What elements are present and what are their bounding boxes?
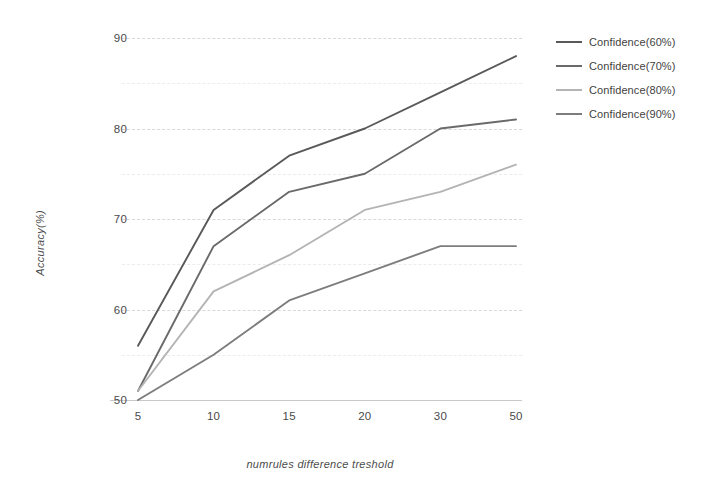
x-tick-30: 30 [434, 410, 447, 422]
y-tick-80: 80 [114, 123, 127, 135]
series-line-confidence-90 [138, 246, 516, 400]
legend: Confidence(60%)Confidence(70%)Confidence… [556, 30, 706, 126]
x-tick-50: 50 [509, 410, 522, 422]
y-axis-title: Accuracy(%) [34, 210, 46, 276]
legend-label: Confidence(70%) [589, 60, 676, 72]
legend-line-swatch-icon [556, 65, 582, 67]
y-tick-70: 70 [114, 213, 127, 225]
y-tick-60: 60 [114, 304, 127, 316]
line-chart: Accuracy(%) numrules difference treshold… [0, 0, 709, 496]
legend-item[interactable]: Confidence(80%) [556, 78, 706, 102]
x-axis-line [110, 400, 522, 401]
x-axis-title: numrules difference treshold [0, 458, 640, 470]
legend-line-swatch-icon [556, 113, 582, 115]
series-line-confidence-80 [138, 165, 516, 391]
plot-area: 5060708090 51015203050 [138, 38, 516, 400]
series-lines [138, 38, 516, 400]
y-tick-90: 90 [114, 32, 127, 44]
y-tick-50: 50 [114, 394, 127, 406]
legend-label: Confidence(60%) [589, 36, 676, 48]
series-line-confidence-60 [138, 56, 516, 346]
legend-item[interactable]: Confidence(70%) [556, 54, 706, 78]
legend-line-swatch-icon [556, 89, 582, 91]
legend-line-swatch-icon [556, 41, 582, 43]
series-line-confidence-70 [138, 119, 516, 391]
x-tick-20: 20 [358, 410, 371, 422]
x-tick-10: 10 [207, 410, 220, 422]
legend-label: Confidence(80%) [589, 84, 676, 96]
legend-item[interactable]: Confidence(60%) [556, 30, 706, 54]
legend-item[interactable]: Confidence(90%) [556, 102, 706, 126]
x-tick-5: 5 [135, 410, 142, 422]
x-tick-15: 15 [283, 410, 296, 422]
legend-label: Confidence(90%) [589, 108, 676, 120]
